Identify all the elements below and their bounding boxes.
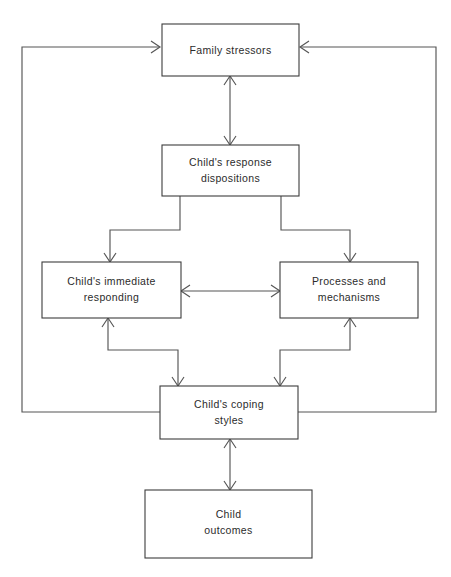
edge-coping-stressors-right	[298, 41, 436, 412]
node-label-processes-mechanisms-line2: mechanisms	[318, 291, 380, 303]
edge-immediate-processes	[181, 285, 280, 297]
node-immediate-responding[interactable]: Child's immediate responding	[42, 262, 181, 318]
node-coping-styles[interactable]: Child's coping styles	[160, 386, 298, 439]
edge-stressors-dispositions	[224, 76, 236, 145]
node-response-dispositions[interactable]: Child's response dispositions	[162, 145, 299, 196]
edge-coping-stressors-left	[22, 41, 160, 412]
edge-dispositions-processes	[281, 196, 356, 262]
edge-dispositions-immediate	[104, 196, 180, 262]
node-label-response-dispositions-line1: Child's response	[189, 156, 272, 168]
node-label-immediate-responding-line2: responding	[84, 291, 139, 303]
edge-immediate-coping	[102, 318, 184, 386]
edge-coping-outcomes	[224, 439, 236, 490]
edge-processes-coping	[274, 318, 356, 386]
node-label-immediate-responding-line1: Child's immediate	[67, 275, 155, 287]
node-processes-mechanisms[interactable]: Processes and mechanisms	[280, 262, 418, 318]
node-label-family-stressors: Family stressors	[189, 44, 271, 56]
diagram-canvas: Family stressors Child's response dispos…	[0, 0, 451, 577]
node-label-coping-styles-line1: Child's coping	[194, 398, 264, 410]
node-label-child-outcomes-line1: Child	[216, 508, 242, 520]
node-label-response-dispositions-line2: dispositions	[201, 172, 260, 184]
node-label-processes-mechanisms-line1: Processes and	[312, 275, 386, 287]
node-label-child-outcomes-line2: outcomes	[204, 524, 252, 536]
node-label-coping-styles-line2: styles	[215, 414, 244, 426]
node-family-stressors[interactable]: Family stressors	[162, 24, 299, 76]
node-child-outcomes[interactable]: Child outcomes	[145, 490, 312, 558]
flowchart-svg: Family stressors Child's response dispos…	[0, 0, 451, 577]
